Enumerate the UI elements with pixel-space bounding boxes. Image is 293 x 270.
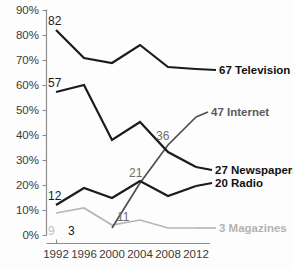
line-chart: 90% 80% 70% 60% 50% 40% 30% 20% 10% 0% bbox=[0, 0, 293, 270]
y-tick-0: 0% bbox=[22, 229, 39, 241]
series-leader-internet bbox=[196, 112, 208, 117]
y-tick-50: 50% bbox=[16, 104, 39, 116]
point-label-magazines-1992: 9 bbox=[48, 224, 55, 238]
series-line-radio bbox=[56, 181, 196, 205]
point-label-television-1992: 82 bbox=[48, 14, 62, 28]
point-label-radio-1992: 12 bbox=[48, 189, 62, 203]
series-line-television bbox=[56, 30, 196, 69]
x-tick-2004: 2004 bbox=[127, 248, 153, 260]
y-tick-30: 30% bbox=[16, 154, 39, 166]
x-tick-1992: 1992 bbox=[43, 248, 69, 260]
y-tick-80: 80% bbox=[16, 29, 39, 41]
y-axis bbox=[43, 10, 47, 236]
y-tick-10: 10% bbox=[16, 204, 39, 216]
chart-canvas: 90% 80% 70% 60% 50% 40% 30% 20% 10% 0% bbox=[0, 0, 293, 270]
series-leader-newspapers bbox=[196, 167, 212, 170]
x-tick-2000: 2000 bbox=[99, 248, 125, 260]
y-tick-20: 20% bbox=[16, 179, 39, 191]
x-axis bbox=[47, 240, 211, 244]
y-tick-60: 60% bbox=[16, 79, 39, 91]
point-label-internet-2008: 36 bbox=[156, 129, 170, 143]
point-label-internet-2004: 21 bbox=[129, 166, 143, 180]
y-tick-90: 90% bbox=[16, 4, 39, 16]
x-tick-1996: 1996 bbox=[71, 248, 97, 260]
series-label-internet: 47 Internet bbox=[211, 106, 269, 118]
point-label-magazines-1996: 11 bbox=[117, 210, 130, 224]
series-leader-television bbox=[196, 69, 216, 70]
series-label-magazines: 3 Magazines bbox=[219, 222, 287, 234]
point-label-internet-2000: 3 bbox=[68, 224, 75, 238]
x-tick-2012: 2012 bbox=[183, 248, 209, 260]
series-label-newspapers: 27 Newspapers bbox=[215, 164, 293, 176]
x-axis-tick-labels: 1992 1996 2000 2004 2008 2012 bbox=[43, 248, 209, 260]
y-tick-70: 70% bbox=[16, 54, 39, 66]
point-label-newspapers-1992: 57 bbox=[48, 76, 62, 90]
series-line-newspapers bbox=[56, 85, 196, 167]
series-label-radio: 20 Radio bbox=[215, 177, 263, 189]
y-tick-40: 40% bbox=[16, 129, 39, 141]
y-axis-tick-labels: 90% 80% 70% 60% 50% 40% 30% 20% 10% 0% bbox=[16, 4, 39, 241]
series-label-television: 67 Television bbox=[219, 64, 290, 76]
series-leader-radio bbox=[196, 183, 212, 186]
x-tick-2008: 2008 bbox=[155, 248, 181, 260]
